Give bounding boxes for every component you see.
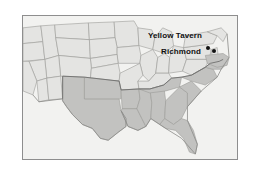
city-dot-yellow-tavern <box>206 46 210 50</box>
city-label-yellow-tavern: Yellow Tavern <box>148 31 201 40</box>
state-north-dakota <box>88 22 115 40</box>
state-colorado <box>59 55 92 79</box>
map-frame <box>22 15 238 160</box>
state-oregon <box>23 42 45 62</box>
state-new-mexico <box>47 76 63 100</box>
city-label-richmond: Richmond <box>148 47 201 56</box>
state-arkansas <box>121 89 140 109</box>
state-washington <box>23 26 43 44</box>
state-iowa <box>117 46 141 64</box>
state-wyoming <box>56 38 91 59</box>
state-utah <box>45 55 61 78</box>
state-montana <box>55 23 90 40</box>
state-minnesota <box>114 21 139 48</box>
map-illustration <box>23 16 237 159</box>
map-figure: Yellow Tavern Richmond <box>0 0 254 176</box>
city-dot-richmond <box>212 49 216 53</box>
